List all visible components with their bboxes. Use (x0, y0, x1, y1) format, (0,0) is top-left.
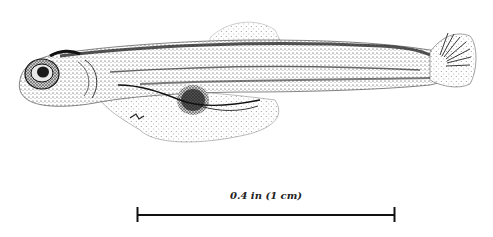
caudal-fin (430, 34, 476, 87)
eye-pupil (37, 67, 49, 78)
larval-fish-illustration (0, 0, 493, 237)
scale-bar (137, 207, 395, 222)
scale-bar-label: 0.4 in (1 cm) (0, 190, 493, 201)
